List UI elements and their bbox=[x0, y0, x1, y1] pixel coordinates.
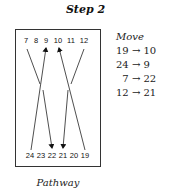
move-row: 12 → 21 bbox=[116, 86, 156, 100]
path-19-to-10 bbox=[59, 48, 85, 150]
move-row: 19 → 10 bbox=[116, 44, 156, 58]
moves-list: Move 19 → 10 24 → 9 7 → 22 12 → 21 bbox=[116, 30, 156, 100]
move-row: 7 → 22 bbox=[116, 72, 156, 86]
moves-heading: Move bbox=[116, 30, 156, 44]
path-24-to-9 bbox=[31, 48, 46, 150]
path-7-to-22 bbox=[27, 49, 52, 148]
pathway-caption: Pathway bbox=[0, 177, 116, 188]
move-row: 24 → 9 bbox=[116, 58, 156, 72]
